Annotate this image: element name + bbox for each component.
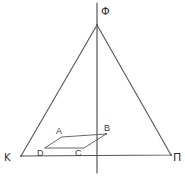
vertex-dot-apex (96, 24, 98, 26)
vertex-dot-bottom-right (170, 154, 172, 156)
label-point-d: D (37, 148, 44, 158)
label-point-a: A (56, 126, 62, 136)
label-apex-phi: Φ (101, 5, 110, 18)
label-point-c: C (75, 148, 82, 158)
diagram-canvas: Φ Κ Π A B C D (0, 0, 185, 176)
label-bottom-left-kappa: Κ (4, 152, 11, 163)
main-triangle (21, 25, 171, 156)
vertex-dot-b (105, 133, 107, 135)
geometry-figure: Φ Κ Π A B C D (0, 0, 185, 176)
label-bottom-right-pi: Π (173, 151, 181, 164)
vertex-dot-bottom-left (20, 155, 22, 157)
label-point-b: B (104, 123, 110, 133)
